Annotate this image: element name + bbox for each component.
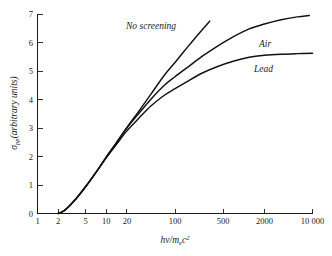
- x-tick-label-2: 2: [56, 216, 60, 226]
- x-tick-label-1: 1: [35, 216, 39, 226]
- curve-air: [58, 15, 309, 213]
- x-tick-label-20: 20: [123, 216, 132, 226]
- axes-group: [38, 14, 313, 214]
- curves-group: [58, 15, 312, 213]
- x-tick-label-10000: 10 000: [301, 216, 324, 226]
- x-tick-label-2000: 2000: [256, 216, 273, 226]
- annotations-group: No screening Air Lead: [125, 21, 273, 74]
- annotation-no-screening: No screening: [125, 21, 176, 31]
- x-tick-label-5: 5: [83, 216, 87, 226]
- x-axis-title: hv/mec2: [161, 234, 191, 247]
- y-ticks-group: [38, 14, 43, 214]
- x-title-exp: 2: [186, 234, 190, 241]
- annotation-lead: Lead: [253, 64, 273, 74]
- pair-production-cross-section-chart: 0 1 2 3 4 5 6 7 1 2 5 10 20: [0, 0, 332, 256]
- y-tick-label-5: 5: [29, 66, 33, 76]
- y-tick-label-4: 4: [29, 95, 34, 105]
- y-tick-label-3: 3: [29, 123, 33, 133]
- figure-root: 0 1 2 3 4 5 6 7 1 2 5 10 20: [0, 0, 332, 256]
- x-tick-label-100: 100: [169, 216, 182, 226]
- y-tick-labels-group: 0 1 2 3 4 5 6 7: [29, 9, 34, 219]
- x-tick-label-500: 500: [217, 216, 230, 226]
- annotation-air: Air: [258, 39, 271, 49]
- y-tick-label-2: 2: [29, 152, 33, 162]
- svg-text:σpp(arbitrary units): σpp(arbitrary units): [9, 76, 20, 149]
- x-tick-label-10: 10: [102, 216, 111, 226]
- y-axis-title: σpp(arbitrary units): [9, 76, 20, 149]
- y-title-rest: (arbitrary units): [9, 76, 20, 138]
- y-tick-label-7: 7: [29, 9, 33, 19]
- curve-no-screening: [58, 21, 210, 213]
- curve-lead: [58, 53, 312, 213]
- svg-text:hv/mec2: hv/mec2: [161, 234, 191, 247]
- y-tick-label-0: 0: [29, 209, 33, 219]
- y-tick-label-6: 6: [29, 38, 33, 48]
- x-tick-labels-group: 1 2 5 10 20 100 500 2000 10 000: [35, 216, 324, 226]
- x-ticks-group: [38, 209, 313, 214]
- y-tick-label-1: 1: [29, 180, 33, 190]
